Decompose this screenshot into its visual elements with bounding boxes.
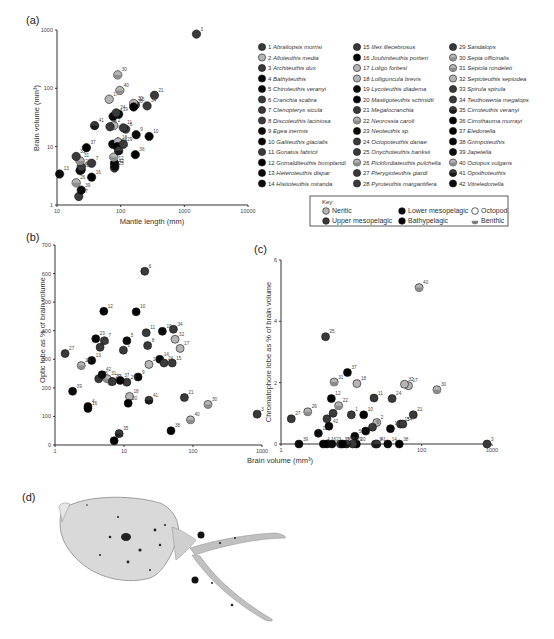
x-tick-label: 100 [417, 447, 426, 453]
legend-item: 18 Lolliguncula brevis [353, 75, 420, 82]
point-label: 29 [127, 137, 133, 142]
data-point [325, 422, 333, 430]
point-label: 39 [77, 384, 83, 389]
legend-label: 26 Pickfordiateuthis pulchella [363, 160, 441, 166]
chart-bc-xlabel: Brain volume (mm³) [247, 456, 313, 465]
data-point [353, 380, 361, 388]
neritic-icon [323, 208, 330, 215]
data-point [92, 335, 100, 343]
x-tick-label: 100 [188, 448, 197, 454]
data-point [90, 121, 98, 129]
point-label: 12 [335, 391, 341, 396]
data-point [158, 327, 166, 335]
legend-item: 38 Grimpoteuthis [449, 138, 504, 145]
legend-item: 41 Opisthoteuthis [449, 169, 505, 176]
legend-item: 1 Abraliopsis morrisi [258, 43, 322, 50]
point-label: 24 [168, 356, 174, 361]
key-label: Bathypelagic [408, 217, 449, 225]
data-point [353, 54, 360, 61]
legend-item: 23 Neoteuthis sp. [353, 127, 409, 134]
x-tick-label: 1000 [178, 208, 190, 214]
data-point [145, 132, 153, 140]
point-label: 15 [176, 356, 182, 361]
point-label: 17 [184, 341, 190, 346]
point-label: 9 [140, 127, 143, 132]
chart-c-ticks: 110010000246 [274, 257, 498, 453]
data-point [353, 43, 360, 50]
legend-item: 3 Architeuthis dux [258, 64, 316, 71]
legend-label: 22 Neorossia caroli [363, 118, 415, 124]
legend-item: 17 Loligo forbesi [353, 64, 407, 71]
data-point [395, 440, 403, 448]
data-point [373, 440, 381, 448]
lower-icon [399, 208, 406, 215]
data-point [258, 106, 265, 113]
chart-c-ylabel: Chromatophore lobe as % of brain volume [264, 282, 273, 423]
legend-label: 13 Heteroteuthis dispar [268, 170, 331, 176]
data-point [116, 376, 124, 384]
point-label: 28 [104, 340, 110, 345]
data-point [258, 54, 265, 61]
panel-label-c: (c) [254, 243, 267, 255]
point-label: 3 [491, 437, 494, 442]
point-label: 10 [140, 304, 146, 309]
panel-label-d: (d) [22, 491, 35, 503]
squid-eye [198, 532, 205, 539]
chart-b: 11010010000100200300400500600700 Optic l… [38, 242, 268, 454]
point-label: 40 [423, 280, 429, 285]
data-point [119, 346, 127, 354]
point-label: 9 [142, 370, 145, 375]
data-point [449, 96, 456, 103]
legend-item: 22 Neorossia caroli [353, 117, 415, 124]
panel-label-a: (a) [26, 14, 39, 26]
legend-item: 35 Cirroteuthis veranyi [449, 106, 519, 113]
y-tick-label: 0 [48, 442, 51, 448]
data-point [114, 147, 122, 155]
legend-label: 10 Galiteuthis glacialis [268, 139, 328, 145]
data-point [87, 173, 95, 181]
data-point [258, 148, 265, 155]
legend-label: 40 Octopus vulgaris [459, 160, 512, 166]
data-point [141, 267, 149, 275]
data-point [169, 325, 177, 333]
data-point [327, 395, 335, 403]
point-label: 23 [100, 331, 106, 336]
data-point [116, 86, 124, 94]
data-point [328, 440, 336, 448]
data-point [335, 402, 343, 410]
y-tick-label: 10 [47, 144, 53, 150]
data-point [258, 138, 265, 145]
legend-label: 42 Vitreledonella [459, 181, 504, 187]
point-label: 10 [153, 129, 159, 134]
data-point [123, 337, 131, 345]
legend-label: 38 Grimpoteuthis [459, 139, 505, 145]
data-point [114, 71, 122, 79]
point-label: 30 [441, 382, 447, 387]
bathy-icon [399, 218, 406, 225]
data-point [187, 416, 195, 424]
data-point [314, 429, 322, 437]
legend-label: 15 Illex illecebrosus [363, 44, 415, 50]
legend-item: 19 Lycoteuthis diadema [353, 85, 427, 92]
legend-label: 6 Cranchia scabra [268, 97, 317, 103]
data-point [353, 96, 360, 103]
legend-label: 39 Japetella [459, 149, 492, 155]
data-point [323, 415, 331, 423]
legend-label: 12 Grimalditeuthis bomplandi [268, 160, 346, 166]
legend-item: 37 Eledonella [449, 127, 496, 134]
data-point [449, 106, 456, 113]
y-tick-label: 200 [42, 385, 51, 391]
legend-label: 23 Neoteuthis sp. [363, 128, 410, 134]
data-point [258, 117, 265, 124]
legend-item: 10 Galiteuthis glacialis [258, 138, 327, 145]
point-label: 7 [96, 156, 99, 161]
legend-label: 19 Lycoteuthis diadema [363, 86, 427, 92]
data-point [353, 75, 360, 82]
point-label: 29 [131, 375, 137, 380]
data-point [483, 440, 491, 448]
legend-label: 8 Discoteuthis laciniosa [268, 118, 331, 124]
legend-item: 13 Heteroteuthis dispar [258, 169, 331, 176]
point-label: 42 [119, 159, 125, 164]
data-point [84, 404, 92, 412]
y-tick-label: 100 [44, 85, 53, 91]
